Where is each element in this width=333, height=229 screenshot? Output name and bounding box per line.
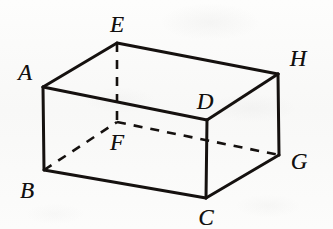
edge-C-G-solid xyxy=(206,155,279,198)
edge-B-C-solid xyxy=(44,170,206,198)
vertex-label-E: E xyxy=(110,13,124,36)
edge-A-E-solid xyxy=(43,43,117,87)
edge-E-H-solid xyxy=(117,43,278,74)
vertex-label-D: D xyxy=(197,90,214,113)
vertex-label-C: C xyxy=(198,206,213,229)
geometry-figure: ABCDEFGH xyxy=(0,0,333,229)
vertex-label-H: H xyxy=(290,47,307,70)
vertex-label-F: F xyxy=(110,131,124,154)
vertex-label-A: A xyxy=(18,61,32,84)
vertex-label-B: B xyxy=(20,179,34,202)
edge-D-A-solid xyxy=(43,87,207,120)
edge-H-D-solid xyxy=(207,74,278,120)
visible-edges-layer xyxy=(0,0,333,229)
edge-D-C-solid xyxy=(206,120,207,198)
vertex-label-G: G xyxy=(291,150,308,173)
edge-A-B-solid xyxy=(43,87,44,170)
edge-H-G-solid xyxy=(278,74,279,155)
